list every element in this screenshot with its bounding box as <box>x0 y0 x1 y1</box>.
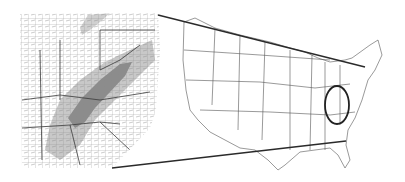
us-border <box>183 18 382 170</box>
us-outline-map <box>183 18 382 170</box>
connector-bottom <box>112 141 346 168</box>
county-inset-map <box>18 10 163 172</box>
inset-map-figure <box>0 0 405 182</box>
